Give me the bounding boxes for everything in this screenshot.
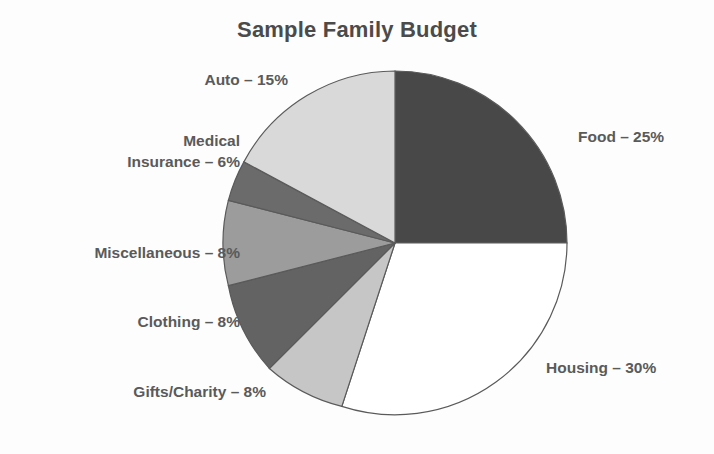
pie-label-auto: Auto – 15% (120, 69, 288, 90)
pie-label-gifts-charity: Gifts/Charity – 8% (55, 381, 266, 402)
pie-label-food: Food – 25% (578, 126, 664, 147)
pie-chart-figure: Sample Family Budget Food – 25% Housing … (0, 0, 714, 454)
pie-label-medical-insurance: Medical Insurance – 6% (18, 130, 240, 173)
pie-label-clothing: Clothing – 8% (55, 311, 240, 332)
pie-label-medical-line2: Insurance – 6% (18, 151, 240, 172)
pie-label-miscellaneous: Miscellaneous – 8% (18, 242, 240, 263)
pie-label-housing: Housing – 30% (546, 357, 656, 378)
pie-slice-food (395, 71, 567, 243)
pie-label-medical-line1: Medical (18, 130, 240, 151)
